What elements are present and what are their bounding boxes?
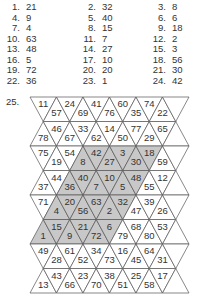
cell-value: 23 — [78, 270, 89, 281]
cell-value: 17 — [157, 270, 168, 281]
cell-value: 72 — [91, 230, 102, 241]
cell-value: 20 — [64, 196, 75, 207]
cell-value: 5 — [120, 181, 125, 192]
cell-value: 14 — [104, 123, 115, 134]
cell-value: 49 — [38, 245, 49, 256]
cell-value: 74 — [144, 98, 155, 109]
cell-value: 64 — [144, 245, 155, 256]
cell-value: 61 — [64, 245, 75, 256]
cell-value: 71 — [38, 196, 49, 207]
cell-value: 22 — [157, 107, 168, 118]
cell-value: 70 — [91, 279, 102, 290]
cell-value: 12 — [157, 172, 168, 183]
cell-value: 29 — [144, 132, 155, 143]
cell-value: 38 — [104, 270, 115, 281]
cell-value: 24 — [64, 98, 75, 109]
cell-value: 35 — [131, 107, 142, 118]
cell-value: 46 — [51, 123, 62, 134]
cell-value: 37 — [38, 181, 49, 192]
cell-value: 76 — [104, 107, 115, 118]
cell-value: 67 — [64, 132, 75, 143]
cell-value: 47 — [131, 205, 142, 216]
cell-value: 45 — [131, 254, 142, 265]
cell-value: 53 — [157, 221, 168, 232]
cell-value: 66 — [64, 279, 75, 290]
cell-value: 21 — [78, 221, 89, 232]
cell-value: 27 — [104, 156, 115, 167]
cell-value: 13 — [38, 279, 49, 290]
cell-value: 65 — [157, 123, 168, 134]
cell-value: 7 — [94, 181, 99, 192]
cell-value: 62 — [91, 132, 102, 143]
cell-value: 40 — [78, 172, 89, 183]
cell-value: 52 — [78, 254, 89, 265]
cell-value: 6 — [107, 221, 112, 232]
cell-value: 78 — [38, 132, 49, 143]
cell-value: 10 — [104, 172, 115, 183]
cell-value: 36 — [64, 181, 75, 192]
cell-value: 44 — [51, 172, 62, 183]
cell-value: 39 — [144, 196, 155, 207]
cell-value: 77 — [131, 123, 142, 134]
cell-value: 50 — [117, 132, 128, 143]
cell-value: 51 — [117, 279, 128, 290]
cell-value: 8 — [80, 156, 85, 167]
cell-value: 19 — [51, 156, 62, 167]
cell-value: 79 — [117, 230, 128, 241]
cell-value: 75 — [38, 147, 49, 158]
cell-value: 73 — [104, 254, 115, 265]
cell-value: 57 — [51, 107, 62, 118]
cell-value: 2 — [107, 205, 112, 216]
cell-value: 42 — [91, 147, 102, 158]
cell-value: 80 — [144, 230, 155, 241]
cell-value: 1 — [41, 230, 46, 241]
cell-value: 58 — [144, 279, 155, 290]
cell-value: 31 — [157, 254, 168, 265]
cell-value: 33 — [78, 123, 89, 134]
cell-value: 15 — [51, 221, 62, 232]
cell-value: 18 — [144, 147, 155, 158]
cell-value: 56 — [78, 205, 89, 216]
triangle-grid: 1157246941766035742278466733621450772965… — [0, 0, 198, 302]
cell-value: 9 — [67, 230, 72, 241]
cell-value: 25 — [131, 270, 142, 281]
cell-value: 3 — [120, 147, 125, 158]
cell-value: 55 — [144, 181, 155, 192]
cell-value: 48 — [131, 172, 142, 183]
cell-value: 28 — [51, 254, 62, 265]
cell-value: 63 — [91, 196, 102, 207]
cell-value: 60 — [117, 98, 128, 109]
cell-value: 43 — [51, 270, 62, 281]
cell-value: 41 — [91, 98, 102, 109]
cell-value: 68 — [131, 221, 142, 232]
cell-value: 30 — [131, 156, 142, 167]
cell-value: 32 — [117, 196, 128, 207]
cell-value: 4 — [54, 205, 59, 216]
cell-value: 26 — [157, 205, 168, 216]
cell-value: 59 — [157, 156, 168, 167]
cell-value: 11 — [38, 98, 48, 109]
cell-value: 34 — [91, 245, 102, 256]
cell-value: 16 — [117, 245, 128, 256]
cell-value: 69 — [78, 107, 89, 118]
cell-value: 54 — [64, 147, 75, 158]
